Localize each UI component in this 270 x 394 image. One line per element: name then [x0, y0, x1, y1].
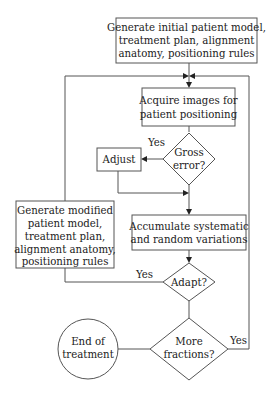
- node-text-line: End of: [71, 336, 106, 347]
- arrowhead-right-icon: [183, 190, 189, 196]
- node-text-line: patient positioning: [140, 109, 238, 120]
- arrowhead-left-icon: [141, 156, 147, 162]
- node-text-line: More: [175, 336, 202, 347]
- node-text-line: Adapt?: [170, 277, 207, 288]
- node-text-line: and random variations: [131, 234, 248, 245]
- node-text-line: fractions?: [163, 349, 214, 360]
- node-text-line: treatment plan, alignment: [119, 35, 256, 46]
- arrowhead-down-icon: [186, 209, 192, 215]
- arrowhead-down-icon: [186, 82, 192, 88]
- node-text-line: Generate initial patient model,: [107, 22, 266, 33]
- flowchart: Generate initial patient model, treatmen…: [0, 0, 270, 394]
- node-accumulate: Accumulate systematic and random variati…: [128, 215, 249, 250]
- node-more-fractions: More fractions?: [150, 318, 228, 380]
- node-adjust: Adjust: [97, 148, 141, 171]
- edge-label-more-fractions-yes: Yes: [229, 335, 247, 346]
- node-text-line: alignment anatomy,: [14, 244, 116, 255]
- node-adapt: Adapt?: [163, 263, 215, 301]
- process-box: [142, 88, 235, 126]
- node-text-line: Gross: [174, 147, 204, 158]
- connector-adjust-to-merge: [118, 171, 184, 193]
- arrowhead-right-icon: [183, 73, 189, 79]
- node-text-line: Accumulate systematic: [128, 221, 249, 232]
- node-text-line: anatomy, positioning rules: [118, 48, 254, 59]
- node-text-line: Generate modified: [17, 205, 113, 216]
- node-text-line: patient model,: [28, 218, 103, 229]
- node-acquire-images: Acquire images for patient positioning: [138, 88, 237, 126]
- arrowhead-left-icon: [189, 73, 195, 79]
- node-text-line: treatment: [62, 349, 114, 360]
- node-text-line: positioning rules: [22, 256, 109, 267]
- arrowhead-down-icon: [186, 257, 192, 263]
- node-generate-initial: Generate initial patient model, treatmen…: [107, 18, 266, 63]
- node-end-of-treatment: End of treatment: [58, 319, 118, 379]
- node-text-line: Adjust: [102, 154, 137, 165]
- node-text-line: treatment plan,: [25, 231, 105, 242]
- decision-diamond: [163, 133, 215, 185]
- node-text-line: Acquire images for: [138, 95, 237, 106]
- edge-label-adapt-yes: Yes: [135, 269, 153, 280]
- node-generate-modified: Generate modified patient model, treatme…: [14, 201, 116, 268]
- node-gross-error: Gross error?: [163, 133, 215, 185]
- edge-label-gross-error-yes: Yes: [147, 137, 165, 148]
- node-text-line: error?: [173, 160, 205, 171]
